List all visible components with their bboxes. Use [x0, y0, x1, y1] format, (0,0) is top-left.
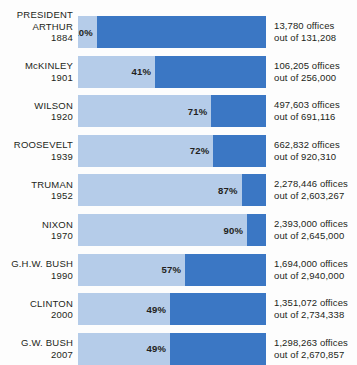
chart-row: G.H.W. BUSH199057%1,694,000 officesout o… — [0, 254, 357, 286]
row-value: 2,393,000 officesout of 2,645,000 — [274, 214, 348, 246]
president-name: ROOSEVELT — [14, 139, 73, 151]
offices-total: out of 131,208 — [274, 32, 336, 44]
president-year: 1939 — [51, 151, 73, 163]
row-label: ROOSEVELT1939 — [0, 135, 73, 167]
row-value: 2,278,446 officesout of 2,603,267 — [274, 174, 348, 206]
bar-percent-label: 41% — [78, 56, 155, 88]
row-label: WILSON1920 — [0, 95, 73, 127]
bar-track: 10% — [78, 16, 266, 48]
offices-total: out of 2,645,000 — [274, 230, 348, 242]
offices-total: out of 920,310 — [274, 151, 340, 163]
bar-percent-label: 49% — [78, 293, 170, 325]
bar-percent-label: 90% — [78, 214, 247, 246]
president-name: WILSON — [34, 100, 73, 112]
chart-row: CLINTON200049%1,351,072 officesout of 2,… — [0, 293, 357, 325]
president-name: NIXON — [42, 219, 73, 231]
offices-total: out of 2,734,338 — [274, 309, 348, 321]
bar-track: 71% — [78, 95, 266, 127]
bar-track: 72% — [78, 135, 266, 167]
row-label: McKINLEY1901 — [0, 56, 73, 88]
president-year: 1920 — [51, 111, 73, 123]
president-name: ARTHUR — [32, 21, 73, 33]
bar-percent-label: 57% — [78, 254, 185, 286]
president-name: TRUMAN — [31, 179, 73, 191]
offices-count: 13,780 offices — [274, 20, 336, 32]
president-name: McKINLEY — [25, 60, 73, 72]
row-value: 1,351,072 officesout of 2,734,338 — [274, 293, 348, 325]
president-year: 1990 — [51, 270, 73, 282]
bar-track: 49% — [78, 293, 266, 325]
row-label: ARTHUR1884 — [0, 16, 73, 48]
bar-percent-label: 87% — [78, 174, 242, 206]
president-year: 1901 — [51, 72, 73, 84]
offices-total: out of 2,940,000 — [274, 270, 348, 282]
offices-total: out of 256,000 — [274, 72, 340, 84]
bar-percent-label: 72% — [78, 135, 213, 167]
offices-count: 662,832 offices — [274, 139, 340, 151]
bar-percent-label: 49% — [78, 333, 170, 365]
offices-count: 106,205 offices — [274, 60, 340, 72]
row-value: 497,603 officesout of 691,116 — [274, 95, 340, 127]
president-year: 2007 — [51, 349, 73, 361]
row-label: TRUMAN1952 — [0, 174, 73, 206]
offices-total: out of 691,116 — [274, 111, 340, 123]
offices-count: 1,694,000 offices — [274, 258, 348, 270]
president-year: 2000 — [51, 309, 73, 321]
offices-count: 1,298,263 offices — [274, 337, 348, 349]
president-name: G.H.W. BUSH — [11, 258, 73, 270]
president-year: 1970 — [51, 230, 73, 242]
offices-count: 2,278,446 offices — [274, 178, 348, 190]
bar-track: 57% — [78, 254, 266, 286]
offices-total: out of 2,670,857 — [274, 349, 348, 361]
chart-row: McKINLEY190141%106,205 officesout of 256… — [0, 56, 357, 88]
offices-total: out of 2,603,267 — [274, 190, 348, 202]
chart-row: ROOSEVELT193972%662,832 officesout of 92… — [0, 135, 357, 167]
row-value: 662,832 officesout of 920,310 — [274, 135, 340, 167]
president-name: CLINTON — [30, 298, 73, 310]
offices-count: 1,351,072 offices — [274, 297, 348, 309]
president-year: 1884 — [51, 32, 73, 44]
row-label: NIXON1970 — [0, 214, 73, 246]
row-value: 1,694,000 officesout of 2,940,000 — [274, 254, 348, 286]
bar-track: 41% — [78, 56, 266, 88]
row-label: G.W. BUSH2007 — [0, 333, 73, 365]
bar-percent-label: 10% — [78, 16, 97, 48]
bar-percent-label: 71% — [78, 95, 211, 127]
president-name: G.W. BUSH — [21, 337, 73, 349]
chart-row: ARTHUR188410%13,780 officesout of 131,20… — [0, 16, 357, 48]
chart-row: TRUMAN195287%2,278,446 officesout of 2,6… — [0, 174, 357, 206]
president-year: 1952 — [51, 190, 73, 202]
row-label: CLINTON2000 — [0, 293, 73, 325]
row-value: 106,205 officesout of 256,000 — [274, 56, 340, 88]
offices-count: 497,603 offices — [274, 99, 340, 111]
row-label: G.H.W. BUSH1990 — [0, 254, 73, 286]
row-value: 13,780 officesout of 131,208 — [274, 16, 336, 48]
offices-count: 2,393,000 offices — [274, 218, 348, 230]
row-value: 1,298,263 officesout of 2,670,857 — [274, 333, 348, 365]
bar-track: 49% — [78, 333, 266, 365]
chart-row: WILSON192071%497,603 officesout of 691,1… — [0, 95, 357, 127]
chart-row: NIXON197090%2,393,000 officesout of 2,64… — [0, 214, 357, 246]
chart-row: G.W. BUSH200749%1,298,263 officesout of … — [0, 333, 357, 365]
bar-track: 87% — [78, 174, 266, 206]
bar-track: 90% — [78, 214, 266, 246]
